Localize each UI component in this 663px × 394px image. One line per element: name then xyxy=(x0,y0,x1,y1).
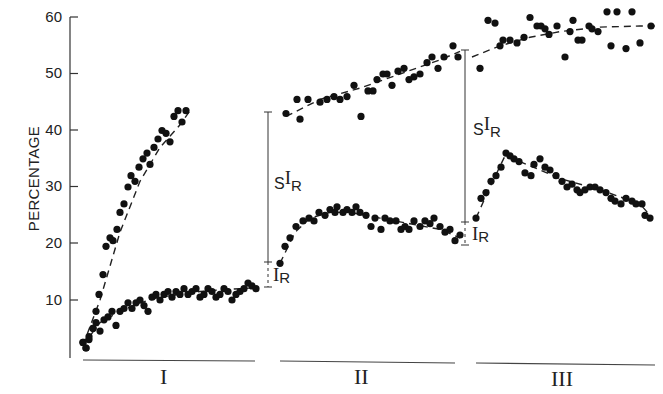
data-point xyxy=(594,28,601,35)
data-point xyxy=(416,223,423,230)
data-point xyxy=(568,181,575,188)
y-tick-50: 50 xyxy=(22,64,62,81)
y-tick-30: 30 xyxy=(22,177,62,194)
data-point xyxy=(321,212,328,219)
data-point xyxy=(520,34,527,41)
data-point xyxy=(135,164,142,171)
data-point xyxy=(92,319,99,326)
data-point xyxy=(120,200,127,207)
data-point xyxy=(578,37,585,44)
data-point xyxy=(367,223,374,230)
data-point xyxy=(357,113,364,120)
data-point xyxy=(85,333,92,340)
data-point xyxy=(476,65,483,72)
data-point xyxy=(449,42,456,49)
data-point xyxy=(454,53,461,60)
data-point xyxy=(400,65,407,72)
data-point xyxy=(423,59,430,66)
data-point xyxy=(113,226,120,233)
data-point xyxy=(296,116,303,123)
y-tick-10: 10 xyxy=(22,291,62,308)
data-point xyxy=(552,172,559,179)
data-point xyxy=(373,76,380,83)
data-point xyxy=(416,70,423,77)
data-point xyxy=(484,17,491,24)
data-point xyxy=(546,166,553,173)
data-point xyxy=(281,243,288,250)
data-point xyxy=(636,39,643,46)
data-point xyxy=(182,107,189,114)
fit-curve xyxy=(286,51,460,116)
data-point xyxy=(506,37,513,44)
data-point xyxy=(99,271,106,278)
data-point xyxy=(323,96,330,103)
data-point xyxy=(613,8,620,15)
data-point xyxy=(487,178,494,185)
data-point xyxy=(536,155,543,162)
data-point xyxy=(292,223,299,230)
data-point xyxy=(286,234,293,241)
data-point xyxy=(82,344,89,351)
y-tick-20: 20 xyxy=(22,234,62,251)
data-point xyxy=(174,107,181,114)
data-point xyxy=(456,231,463,238)
data-point xyxy=(513,39,520,46)
data-point xyxy=(350,82,357,89)
data-point xyxy=(293,96,300,103)
data-point xyxy=(558,178,565,185)
data-points xyxy=(79,8,654,351)
data-point xyxy=(477,195,484,202)
data-point xyxy=(383,70,390,77)
data-point xyxy=(647,22,654,29)
data-point xyxy=(515,158,522,165)
chart-plot-area xyxy=(0,0,663,394)
data-point xyxy=(553,22,560,29)
fit-curve xyxy=(472,26,655,57)
data-point xyxy=(405,226,412,233)
data-point xyxy=(436,223,443,230)
ir-label-1: IR xyxy=(273,264,290,286)
data-point xyxy=(369,87,376,94)
data-point xyxy=(96,328,103,335)
data-point xyxy=(316,99,323,106)
data-point xyxy=(527,172,534,179)
data-point xyxy=(482,189,489,196)
data-point xyxy=(602,189,609,196)
data-point xyxy=(192,285,199,292)
data-point xyxy=(377,226,384,233)
data-point xyxy=(646,215,653,222)
segment-baselines xyxy=(83,360,655,365)
data-point xyxy=(102,243,109,250)
data-point xyxy=(491,20,498,27)
sir-label-2: SIR xyxy=(473,118,501,140)
data-point xyxy=(154,135,161,142)
data-point xyxy=(430,215,437,222)
data-point xyxy=(603,8,610,15)
bracket-2 xyxy=(461,50,469,245)
data-point xyxy=(224,288,231,295)
data-point xyxy=(310,217,317,224)
segment-label-i: I xyxy=(160,364,167,390)
data-point xyxy=(336,96,343,103)
data-point xyxy=(304,96,311,103)
data-point xyxy=(95,291,102,298)
data-point xyxy=(252,285,259,292)
data-point xyxy=(440,53,447,60)
data-point xyxy=(410,217,417,224)
data-point xyxy=(526,14,533,21)
y-axis xyxy=(70,17,78,358)
sir-label-1: SIR xyxy=(274,172,302,194)
data-point xyxy=(497,164,504,171)
data-point xyxy=(566,28,573,35)
data-point xyxy=(561,53,568,60)
data-point xyxy=(166,138,173,145)
data-point xyxy=(499,37,506,44)
y-tick-40: 40 xyxy=(22,121,62,138)
data-point xyxy=(446,226,453,233)
data-point xyxy=(109,237,116,244)
data-point xyxy=(143,150,150,157)
data-point xyxy=(428,53,435,60)
data-point xyxy=(628,8,635,15)
data-point xyxy=(116,209,123,216)
data-point xyxy=(617,200,624,207)
